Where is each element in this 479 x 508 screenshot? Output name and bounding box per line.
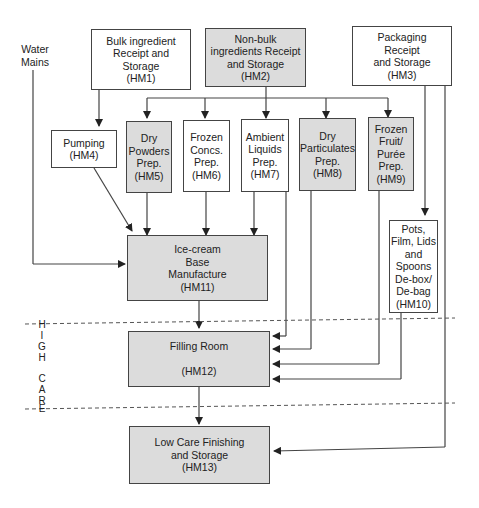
node-hm2: Non-bulk ingredients Receipt and Storage…: [205, 28, 306, 87]
node-hm10: Pots, Film, Lids and Spoons De-box/ De-b…: [389, 220, 438, 313]
zone-letter: I: [36, 331, 48, 341]
node-hm6: Frozen Concs. Prep. (HM6): [183, 120, 230, 192]
node-hm7: Ambient Liquids Prep. (HM7): [241, 119, 289, 192]
node-hm5: Dry Powders Prep. (HM5): [126, 121, 172, 193]
node-hm9: Frozen Fruit/ Purée Prep. (HM9): [368, 117, 414, 191]
node-hm4: Pumping (HM4): [51, 130, 117, 168]
node-hm13: Low Care Finishing and Storage (HM13): [129, 426, 270, 484]
node-hm12: Filling Room (HM12): [128, 331, 270, 387]
node-hm1: Bulk ingredient Receipt and Storage (HM1…: [91, 29, 191, 90]
zone-letter: C: [36, 374, 48, 384]
water-mains-label: Water Mains: [20, 43, 50, 68]
node-hm8: Dry Particulates Prep. (HM8): [299, 118, 356, 191]
zone-letter: A: [36, 385, 48, 395]
zone-letter: G: [36, 342, 48, 352]
zone-letter: H: [36, 353, 48, 363]
zone-letter: H: [36, 320, 48, 330]
zone-letter: E: [36, 404, 48, 414]
node-hm3: Packaging Receipt and Storage (HM3): [352, 26, 452, 86]
node-hm11: Ice-cream Base Manufacture (HM11): [127, 235, 268, 301]
